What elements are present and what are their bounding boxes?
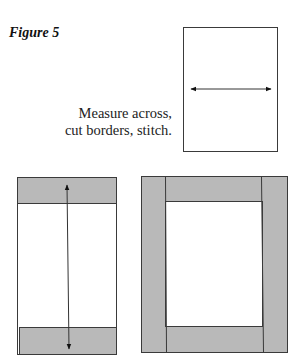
panel-all-borders xyxy=(142,177,288,353)
center-panel xyxy=(166,202,263,327)
bottom-border-strip xyxy=(20,328,117,355)
diagram-canvas xyxy=(0,0,298,362)
panel-measure-across xyxy=(184,28,278,152)
panel-top-bottom-borders xyxy=(18,178,117,355)
